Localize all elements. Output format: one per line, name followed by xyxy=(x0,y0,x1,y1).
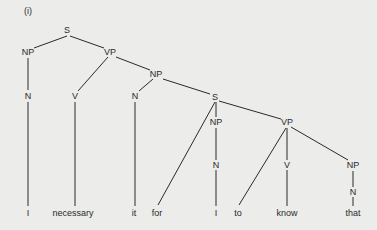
tree-node: S xyxy=(64,26,70,35)
tree-node: NP xyxy=(347,161,360,170)
tree-node: N xyxy=(213,161,220,170)
tree-node: N xyxy=(132,92,139,101)
leaf-word: I xyxy=(27,209,30,218)
leaf-word: I xyxy=(215,209,218,218)
leaf-word: that xyxy=(345,209,360,218)
tree-edge xyxy=(163,79,210,94)
leaf-word: for xyxy=(152,209,163,218)
tree-node: S xyxy=(212,93,218,102)
tree-node: NP xyxy=(210,118,223,127)
tree-node: NP xyxy=(22,48,35,57)
tree-node: NP xyxy=(150,70,163,79)
tree-edge xyxy=(158,102,215,205)
tree-edge xyxy=(78,57,108,91)
tree-edge xyxy=(239,128,286,205)
leaf-word: it xyxy=(132,209,137,218)
leaf-word: to xyxy=(234,209,242,218)
tree-node: V xyxy=(72,92,78,101)
tree-edge xyxy=(139,79,153,91)
syntax-tree-diagram xyxy=(0,0,377,230)
tree-node: VP xyxy=(281,118,293,127)
tree-node: N xyxy=(25,92,32,101)
tree-edge xyxy=(34,36,67,48)
leaf-word: necessary xyxy=(52,209,93,218)
tree-node: V xyxy=(284,161,290,170)
tree-edge xyxy=(116,57,150,70)
tree-edge xyxy=(70,36,104,48)
leaf-word: know xyxy=(276,209,297,218)
tree-edge xyxy=(219,101,281,119)
tree-edge xyxy=(291,127,348,160)
tree-node: N xyxy=(350,188,357,197)
tree-node: VP xyxy=(104,48,116,57)
